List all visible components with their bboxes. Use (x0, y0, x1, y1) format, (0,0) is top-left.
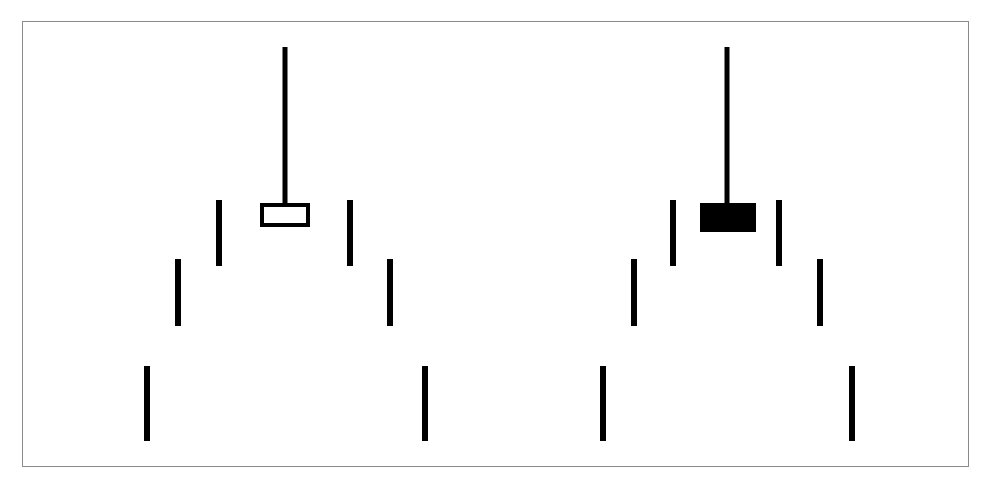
outer-left-bar (144, 366, 150, 441)
inner-left-bar (670, 200, 676, 266)
right-mobile-group (600, 47, 855, 441)
figure-canvas (0, 0, 991, 489)
stem-line (725, 47, 730, 206)
outer-left-bar (600, 366, 606, 441)
left-mobile-group (144, 47, 428, 441)
hollow-rectangle (262, 205, 308, 225)
mid-left-bar (175, 259, 181, 326)
stem-line (283, 47, 288, 206)
inner-right-bar (347, 200, 353, 266)
inner-right-bar (776, 200, 782, 266)
filled-rectangle (702, 205, 754, 230)
mid-left-bar (631, 259, 637, 326)
outer-right-bar (422, 366, 428, 441)
inner-left-bar (216, 200, 222, 266)
figure-root: Two hanging mobile diagrams with candles… (0, 0, 991, 489)
mid-right-bar (387, 259, 393, 326)
outer-right-bar (849, 366, 855, 441)
mid-right-bar (817, 259, 823, 326)
